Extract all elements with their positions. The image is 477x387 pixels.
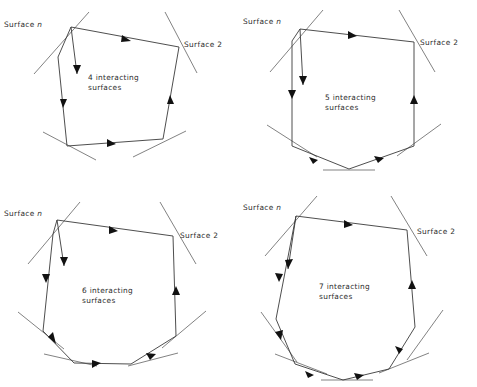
- arrow-head: [167, 95, 174, 104]
- arrow-head: [408, 280, 416, 289]
- arrow-head: [73, 65, 81, 74]
- arrow-head: [109, 226, 118, 234]
- arrow-head: [121, 35, 131, 42]
- arrow-head: [395, 346, 403, 354]
- arrow-head: [288, 90, 296, 99]
- label-surface-n: Surface n: [4, 209, 42, 218]
- panel-4-surfaces: Surface n Surface 2 4 interacting surfac…: [0, 0, 239, 194]
- panel-caption-line1: 4 interacting: [88, 73, 139, 82]
- panel-caption-line1: 7 interacting: [319, 282, 370, 291]
- label-surface-2: Surface 2: [420, 38, 458, 47]
- arrow-head: [60, 99, 67, 108]
- label-surface-2: Surface 2: [184, 40, 222, 49]
- arrow-head: [60, 257, 68, 266]
- label-surface-n: Surface n: [243, 17, 281, 26]
- arrow-head: [48, 332, 56, 344]
- arrow-head: [275, 273, 283, 282]
- panel-caption-line2: surfaces: [319, 292, 353, 301]
- label-surface-2: Surface 2: [417, 227, 455, 236]
- arrow-head: [344, 220, 353, 228]
- arrow-head: [92, 360, 101, 368]
- panel-caption-line1: 6 interacting: [82, 286, 133, 295]
- panel-caption-line1: 5 interacting: [325, 93, 376, 102]
- surface-ticks: [18, 202, 206, 366]
- label-surface-n: Surface n: [243, 203, 281, 212]
- figure-root: Surface n Surface 2 4 interacting surfac…: [0, 0, 477, 387]
- arrow-head: [275, 330, 283, 340]
- arrow-head: [309, 157, 318, 164]
- arrow-head: [299, 76, 307, 85]
- panel-7-surfaces: Surface n Surface 2 7 interacting surfac…: [239, 194, 477, 387]
- arrow-head: [305, 371, 314, 378]
- arrow-head: [354, 373, 364, 380]
- panel-caption-line2: surfaces: [82, 296, 116, 305]
- panel-5-surfaces: Surface n Surface 2 5 interacting surfac…: [239, 0, 477, 194]
- panel-6-surfaces: Surface n Surface 2 6 interacting surfac…: [0, 194, 239, 387]
- arrow-head: [107, 139, 116, 147]
- arrow-head: [410, 95, 418, 104]
- panel-caption-line2: surfaces: [88, 83, 122, 92]
- label-surface-2: Surface 2: [180, 231, 218, 240]
- arrow-head: [172, 286, 180, 295]
- label-surface-n: Surface n: [4, 20, 42, 29]
- panel-caption-line2: surfaces: [325, 103, 359, 112]
